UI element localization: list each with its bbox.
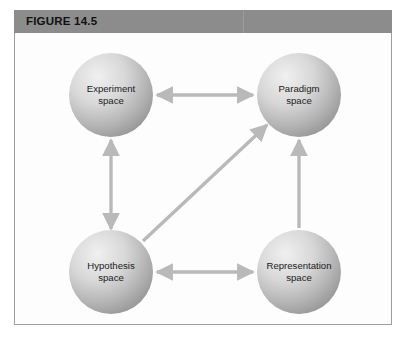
experiment-space-label-line2: space: [98, 95, 124, 106]
node-hypothesis-space[interactable]: Hypothesis space: [69, 230, 153, 314]
experiment-space-label-line1: Experiment: [87, 83, 136, 94]
node-experiment-space[interactable]: Experiment space: [69, 53, 153, 137]
figure-number-label: FIGURE 14.5: [26, 16, 97, 28]
figure-body-frame: Experiment space Paradigm space Hypothes…: [14, 33, 392, 325]
edge-hypothesis-paradigm: [143, 125, 267, 241]
node-paradigm-space[interactable]: Paradigm space: [257, 53, 341, 137]
hypothesis-space-label-line1: Hypothesis: [87, 260, 135, 271]
representation-space-label-line2: space: [286, 272, 312, 283]
diagram-canvas: Experiment space Paradigm space Hypothes…: [15, 33, 392, 325]
paradigm-space-label-line1: Paradigm: [278, 83, 319, 94]
header-divider: [243, 10, 244, 33]
hypothesis-space-label-line2: space: [98, 272, 124, 283]
figure-header-bar: FIGURE 14.5: [14, 10, 392, 33]
figure-container: FIGURE 14.5: [0, 0, 405, 344]
paradigm-space-label-line2: space: [286, 95, 312, 106]
node-representation-space[interactable]: Representation space: [257, 230, 341, 314]
representation-space-label-line1: Representation: [266, 260, 331, 271]
